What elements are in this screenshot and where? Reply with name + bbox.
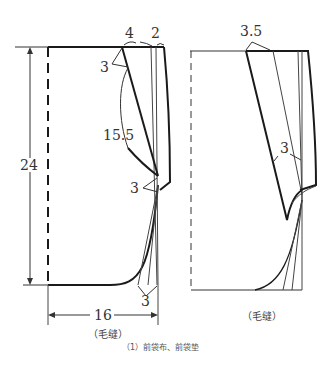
offset-arc-4a: [124, 42, 136, 45]
arrow-right-icon: [151, 312, 158, 318]
label-offset-3-5: 3.5: [240, 23, 262, 39]
arrow-down-icon: [27, 278, 33, 285]
arrow-left-icon: [48, 312, 55, 318]
inner-line-b: [273, 51, 302, 195]
label-bottom-3: 3: [141, 293, 150, 309]
pocket-pattern-diagram: 4 2 3 15.5 24 3 3 16 （毛缝）: [0, 0, 330, 369]
side-marker-tick-b: [290, 154, 301, 160]
label-height-24: 24: [20, 157, 38, 173]
label-side-3: 3: [280, 140, 289, 156]
bottom-curve: [255, 200, 302, 290]
label-offset-4: 4: [125, 25, 134, 41]
pocket-facing-line: [246, 51, 302, 220]
arrow-up-icon: [27, 47, 33, 54]
lower-line-1: [138, 185, 158, 285]
left-piece-note: （毛缝）: [88, 328, 128, 340]
label-curve-15-5: 15.5: [103, 127, 134, 143]
label-side-3: 3: [130, 180, 139, 196]
side-marker: [143, 178, 158, 192]
offset-arc-4b: [140, 42, 152, 46]
side-marker-tick-a: [274, 156, 278, 161]
left-piece-front-pocket-bag: 4 2 3 15.5 24 3 3 16 （毛缝）: [15, 25, 170, 340]
offset-marker-3-5: [246, 42, 270, 50]
label-dart-3: 3: [100, 59, 109, 75]
label-offset-2: 2: [151, 25, 160, 41]
offset-arc-2: [157, 44, 164, 46]
right-piece-front-pocket-facing: 3.5 3 （毛缝）: [190, 23, 316, 322]
right-piece-note: （毛缝）: [242, 310, 282, 322]
lower-line-2: [292, 200, 302, 290]
figure-caption: （1）前袋布、前袋垫: [122, 342, 199, 352]
right-outer-edge: [160, 47, 170, 190]
label-width-16: 16: [94, 307, 112, 323]
